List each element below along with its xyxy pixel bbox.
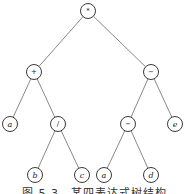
node-label: b	[32, 171, 37, 180]
tree-node-operand: b	[28, 168, 43, 183]
tree-edge	[13, 79, 31, 117]
tree-edge	[131, 131, 148, 168]
tree-nodes: *+−a/−ebcad	[3, 4, 183, 183]
node-label: a	[102, 171, 107, 180]
node-label: c	[80, 171, 85, 180]
expression-tree-diagram: *+−a/−ebcad	[0, 0, 189, 194]
tree-edge	[38, 131, 55, 168]
tree-node-operator: +	[27, 65, 42, 80]
node-label: −	[125, 120, 131, 128]
figure-caption: 图 5.3 某四表达式树结构	[0, 184, 189, 194]
tree-node-operand: a	[3, 117, 18, 132]
tree-edge	[39, 17, 83, 67]
tree-edges	[13, 16, 172, 168]
tree-edge	[37, 79, 55, 117]
tree-node-operator: −	[144, 65, 159, 80]
tree-node-operand: e	[168, 117, 183, 132]
node-label: d	[148, 171, 153, 180]
tree-node-operand: d	[144, 168, 159, 183]
tree-edge	[131, 79, 148, 117]
node-label: a	[8, 120, 13, 129]
tree-node-operator: −	[121, 117, 136, 132]
tree-edge	[61, 131, 79, 168]
tree-edge	[154, 79, 172, 117]
tree-edge	[107, 131, 125, 168]
tree-edge	[93, 16, 145, 67]
node-label: e	[173, 120, 178, 129]
node-label: +	[31, 68, 37, 76]
node-label: *	[86, 7, 90, 15]
tree-node-operator: *	[81, 4, 96, 19]
node-label: −	[148, 68, 154, 76]
tree-node-operator: /	[51, 117, 66, 132]
tree-node-operand: a	[97, 168, 112, 183]
tree-node-operand: c	[75, 168, 90, 183]
